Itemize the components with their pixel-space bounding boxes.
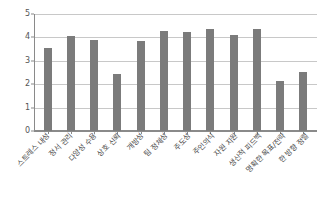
bar[interactable]	[299, 72, 307, 131]
bar-slot	[152, 14, 175, 131]
x-axis-label: 주도성	[173, 132, 193, 152]
y-tick-label: 1	[25, 104, 30, 112]
bar-slot	[106, 14, 129, 131]
bar-slot	[222, 14, 245, 131]
y-tick-label: 2	[25, 80, 30, 88]
bar-slot	[292, 14, 315, 131]
x-axis-labels-group: 스트레스 내성정서 관리다양성 수용상호 신뢰개방성팀 정체성주도성주인의식자원…	[34, 132, 317, 204]
x-axis-label: 팀 정체성	[143, 132, 169, 158]
y-tick-label: 5	[25, 10, 30, 18]
bars-group	[34, 14, 317, 131]
bar[interactable]	[276, 81, 284, 131]
y-tick-label: 4	[25, 33, 30, 41]
x-axis-label: 스트레스 내성	[15, 132, 51, 168]
y-tick-label: 3	[25, 57, 30, 65]
bar[interactable]	[183, 32, 191, 131]
bar-slot	[36, 14, 59, 131]
bar[interactable]	[44, 48, 52, 131]
x-axis-label: 개방성	[126, 132, 146, 152]
bar[interactable]	[90, 40, 98, 131]
bar[interactable]	[67, 36, 75, 131]
bar-slot	[129, 14, 152, 131]
bar[interactable]	[206, 29, 214, 131]
bar-slot	[269, 14, 292, 131]
bar-slot	[83, 14, 106, 131]
bar-slot	[199, 14, 222, 131]
bar-slot	[59, 14, 82, 131]
bar-slot	[176, 14, 199, 131]
bar[interactable]	[230, 35, 238, 131]
y-tick-label: 0	[25, 127, 30, 135]
bar-chart: 012345 스트레스 내성정서 관리다양성 수용상호 신뢰개방성팀 정체성주도…	[0, 0, 327, 206]
bar[interactable]	[113, 74, 121, 131]
x-axis-label: 상호 신뢰	[96, 132, 122, 158]
bar-slot	[245, 14, 268, 131]
bar[interactable]	[160, 31, 168, 131]
bar[interactable]	[253, 29, 261, 131]
bar[interactable]	[137, 41, 145, 131]
plot-area: 012345	[34, 14, 317, 131]
